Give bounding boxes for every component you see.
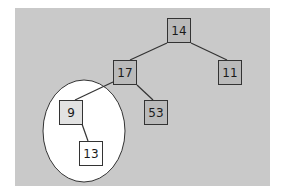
node-label: 9 [67, 106, 75, 120]
tree-node: 17 [113, 60, 137, 85]
tree-node-leaf: 13 [79, 141, 103, 166]
tree-node: 53 [144, 100, 168, 125]
tree-node-highlighted: 9 [59, 100, 83, 125]
tree-edges-layer [0, 0, 284, 196]
node-label: 11 [222, 66, 237, 80]
tree-node: 11 [218, 60, 242, 85]
edge-14-11 [191, 43, 227, 60]
diagram-canvas: 14 17 11 9 53 13 [0, 0, 284, 196]
edge-14-17 [130, 43, 167, 60]
edge-17-53 [137, 85, 153, 100]
node-label: 13 [83, 147, 98, 161]
node-label: 17 [117, 66, 132, 80]
tree-node-root: 14 [167, 18, 191, 43]
node-label: 14 [171, 24, 186, 38]
node-label: 53 [148, 106, 163, 120]
